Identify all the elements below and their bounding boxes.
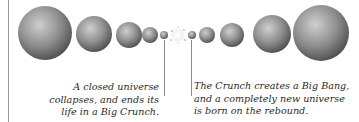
universe-sphere-s8 [220, 23, 244, 47]
universe-sphere-s2 [76, 16, 112, 52]
caption-line: is born on the rebound. [194, 105, 359, 118]
caption-line: The Crunch creates a Big Bang, [194, 80, 359, 93]
caption-line: A closed universe [9, 81, 159, 94]
caption-line: life in a Big Crunch. [9, 106, 159, 119]
caption-line: and a completely new universe [194, 93, 359, 106]
caption-big-bang-rebound: The Crunch creates a Big Bang, and a com… [194, 80, 359, 118]
caption-big-crunch: A closed universe collapses, and ends it… [9, 81, 159, 119]
big-bang-burst [169, 26, 187, 44]
universe-sphere-s5 [160, 31, 168, 39]
universe-sphere-s7 [199, 27, 215, 43]
universe-sphere-s3 [116, 22, 142, 48]
universe-sphere-s6 [188, 31, 196, 39]
caption-line: collapses, and ends its [9, 94, 159, 107]
universe-sphere-s9 [253, 15, 291, 53]
universe-sphere-s1 [18, 6, 72, 60]
universe-sphere-s10 [293, 5, 349, 61]
universe-sphere-s4 [142, 27, 158, 43]
